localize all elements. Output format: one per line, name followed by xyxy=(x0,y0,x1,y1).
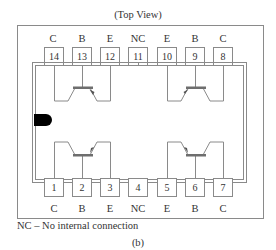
pin-6-number: 6 xyxy=(193,182,198,193)
pin1-notch-marker xyxy=(34,114,52,126)
pin-11-number: 11 xyxy=(133,51,143,62)
pin-10-number: 10 xyxy=(162,51,172,62)
ic-body xyxy=(33,63,247,183)
pin-8-number: 8 xyxy=(221,51,226,62)
q1-base-bar xyxy=(73,87,93,90)
pin-4-function: NC xyxy=(131,203,146,214)
pin-13-number: 13 xyxy=(77,51,87,62)
pin-9-function: B xyxy=(191,33,198,44)
pin-5-function: E xyxy=(164,203,170,214)
q3-collector-lead xyxy=(55,142,76,179)
nc-legend: NC – No internal connection xyxy=(17,220,139,231)
ic-pinout-diagram: (Top View) C B E NC E B C 14 13 12 11 10… xyxy=(0,0,276,250)
q4-base-bar xyxy=(186,154,206,157)
internal-wiring xyxy=(55,62,224,183)
q2-base-bar xyxy=(186,87,206,90)
pin-3-function: E xyxy=(107,203,113,214)
pin-8-function: C xyxy=(219,33,226,44)
top-pin-functions: C B E NC E B C xyxy=(49,33,226,44)
q2-emitter-lead xyxy=(168,66,189,101)
q2-emitter-arrow-icon xyxy=(184,89,189,94)
emitter-arrows xyxy=(90,89,189,153)
q3-base-bar xyxy=(73,154,93,157)
q2-collector-lead xyxy=(203,66,224,101)
pin-2-function: B xyxy=(78,203,85,214)
pin-6-function: B xyxy=(191,203,198,214)
pin-11-function: NC xyxy=(131,33,146,44)
pin-14-function: C xyxy=(49,33,56,44)
pin-1-number: 1 xyxy=(52,182,57,193)
pin-14-number: 14 xyxy=(49,51,59,62)
bottom-pin-functions: C B E NC E B C xyxy=(50,203,226,214)
q4-collector-lead xyxy=(203,142,224,179)
pin-1-function: C xyxy=(50,203,57,214)
pin-12-function: E xyxy=(107,33,113,44)
pin-5-number: 5 xyxy=(165,182,170,193)
pin-7-function: C xyxy=(219,203,226,214)
pin-9-number: 9 xyxy=(193,51,198,62)
pin-13-function: B xyxy=(78,33,85,44)
pin-2-number: 2 xyxy=(80,182,85,193)
pin-4-number: 4 xyxy=(136,182,141,193)
figure-label: (b) xyxy=(132,237,145,249)
q1-collector-lead xyxy=(55,66,76,101)
pin-10-function: E xyxy=(164,33,170,44)
transistor-base-bars xyxy=(73,87,206,157)
pin-3-number: 3 xyxy=(108,182,113,193)
view-title: (Top View) xyxy=(114,9,162,21)
q1-emitter-lead xyxy=(90,66,111,101)
pin-7-number: 7 xyxy=(221,182,226,193)
pin-12-number: 12 xyxy=(105,51,115,62)
